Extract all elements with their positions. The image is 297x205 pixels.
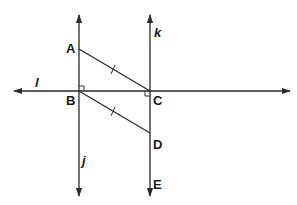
right-angle-marker-b	[79, 86, 84, 91]
segment-bd	[79, 91, 150, 133]
line-label-k: k	[154, 25, 162, 40]
geometry-diagram: A B C D E l j k	[0, 0, 297, 205]
point-label-a: A	[66, 41, 76, 56]
point-label-c: C	[153, 93, 163, 108]
right-angle-marker-c	[145, 91, 150, 96]
point-label-e: E	[153, 177, 162, 192]
line-label-l: l	[35, 75, 39, 90]
point-label-d: D	[153, 137, 162, 152]
line-label-j: j	[80, 153, 86, 168]
segment-ac	[79, 49, 150, 91]
point-label-b: B	[66, 93, 75, 108]
